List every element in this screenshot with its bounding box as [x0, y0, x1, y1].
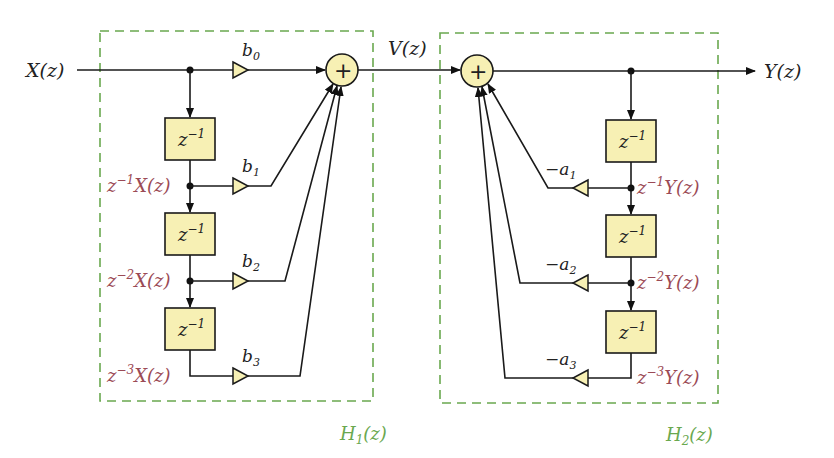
gain-a2-icon: [573, 275, 588, 291]
signal-x2-label: z−2X(z): [106, 268, 171, 291]
gain-a3-icon: [573, 370, 588, 386]
tap-y3-wire: [588, 353, 631, 378]
signal-y2-label: z−2Y(z): [636, 270, 700, 293]
gain-b3-icon: [233, 368, 248, 384]
gain-a1-label: −a1: [545, 159, 576, 182]
tap-x3-wire: [190, 350, 233, 376]
h2-label: H2(z): [665, 424, 713, 448]
gain-b3-label: b3: [242, 346, 260, 369]
sum-2-symbol: +: [469, 59, 487, 84]
gain-b2-icon: [233, 273, 248, 289]
b1-to-sum-wire: [248, 84, 333, 186]
output-label: Y(z): [764, 60, 801, 82]
gain-b1-label: b1: [242, 156, 260, 179]
sum-1-symbol: +: [334, 58, 352, 83]
intermediate-label: V(z): [388, 37, 427, 59]
filter-block-diagram: H1(z) X(z) b0 + z−1 z−1 z−1 b1 b2 b3 z−1…: [0, 0, 834, 458]
a3-to-sum-wire: [478, 88, 573, 378]
gain-b1-icon: [233, 178, 248, 194]
input-label: X(z): [24, 59, 64, 81]
signal-x3-label: z−3X(z): [106, 363, 171, 386]
gain-a3-label: −a3: [545, 349, 576, 372]
gain-a2-label: −a2: [545, 254, 576, 277]
gain-b0-icon: [233, 62, 248, 78]
signal-y3-label: z−3Y(z): [636, 365, 700, 388]
signal-x1-label: z−1X(z): [106, 173, 171, 196]
gain-b2-label: b2: [242, 251, 260, 274]
gain-b0-label: b0: [242, 40, 260, 63]
h1-label: H1(z): [339, 423, 387, 447]
gain-a1-icon: [573, 180, 588, 196]
signal-y1-label: z−1Y(z): [636, 175, 700, 198]
b3-to-sum-wire: [248, 87, 341, 376]
b2-to-sum-wire: [248, 86, 337, 281]
